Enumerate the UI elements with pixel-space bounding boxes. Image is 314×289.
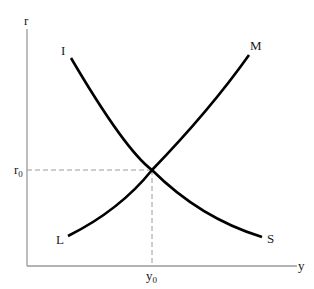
is-curve-start-label: I bbox=[61, 43, 65, 58]
is-curve bbox=[71, 58, 262, 237]
lm-curve-start-label: L bbox=[56, 232, 64, 247]
is-lm-diagram: r y I S L M r0 y0 bbox=[0, 0, 314, 289]
y0-label: y0 bbox=[146, 268, 158, 285]
y-axis-label: r bbox=[24, 13, 29, 28]
r0-label: r0 bbox=[14, 162, 23, 179]
x-axis-label: y bbox=[298, 258, 305, 273]
is-curve-end-label: S bbox=[267, 231, 274, 246]
lm-curve bbox=[68, 55, 249, 236]
lm-curve-end-label: M bbox=[250, 38, 262, 53]
